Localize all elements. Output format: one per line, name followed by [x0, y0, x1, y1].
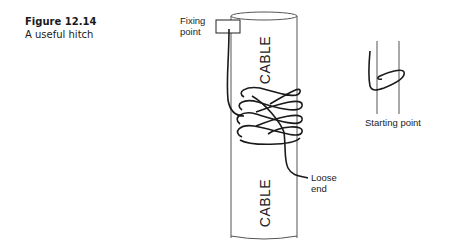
fixing-point-box: [216, 20, 240, 33]
hitch-coils: [237, 88, 302, 145]
coil-3: [237, 113, 302, 126]
cable-bottom-edge: [231, 236, 297, 239]
loose-end-label-2: end: [311, 183, 327, 194]
starting-point-inset: [369, 41, 404, 114]
fixing-point-label-2: point: [180, 26, 201, 37]
hitch-diagram: CABLE CABLE Fixing point Loose end Start…: [0, 0, 449, 249]
cable-label-bottom: CABLE: [257, 179, 273, 227]
loose-end-label-1: Loose: [311, 172, 337, 183]
cable-label-top: CABLE: [257, 36, 273, 84]
rope-loose-end: [284, 132, 308, 178]
fixing-point-label-1: Fixing: [180, 15, 205, 26]
starting-point-label: Starting point: [365, 117, 421, 128]
cable-top-ellipse: [231, 12, 297, 20]
coil-4: [238, 126, 303, 137]
coil-5: [240, 138, 300, 144]
coil-2: [239, 101, 302, 112]
